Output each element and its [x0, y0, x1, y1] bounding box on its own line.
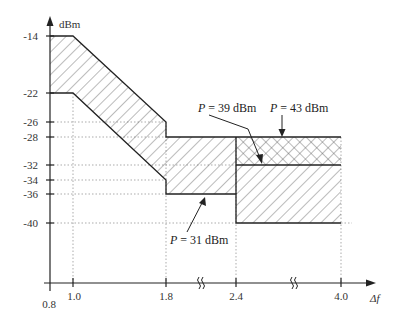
region-p43	[236, 137, 341, 165]
region-p31	[50, 36, 236, 194]
x-tick-label: 1.8	[159, 290, 173, 302]
x-tick-label: 0.8	[42, 298, 56, 310]
x-tick-label: 4.0	[334, 290, 348, 302]
annotation-p39: P = 39 dBm	[197, 101, 257, 115]
y-tick-label: -36	[23, 188, 38, 200]
y-tick-label: -28	[23, 131, 38, 143]
y-tick-label: -40	[23, 217, 38, 229]
x-axis-title: Δf	[369, 292, 381, 304]
y-axis-title: dBm	[59, 18, 81, 30]
annotation-p31: P = 31 dBm	[169, 233, 229, 247]
y-axis-arrow-icon	[47, 16, 54, 26]
y-tick-labels: -14 -22 -26 -28 -32 -34 -36 -40	[23, 30, 38, 229]
y-tick-label: -26	[23, 116, 38, 128]
annotation-p43: P = 43 dBm	[269, 101, 329, 115]
y-tick-label: -22	[23, 87, 38, 99]
x-tick-label: 2.4	[229, 290, 243, 302]
y-tick-label: -14	[23, 30, 38, 42]
y-tick-label: -34	[23, 174, 38, 186]
arrow-head-p31-icon	[199, 197, 206, 206]
y-tick-label: -32	[23, 159, 38, 171]
region-p39	[236, 165, 341, 223]
spectrum-mask-diagram: -14 -22 -26 -28 -32 -34 -36 -40 0.8 1.0 …	[0, 0, 398, 320]
x-axis-arrow-icon	[366, 280, 376, 287]
x-tick-labels: 0.8 1.0 1.8 2.4 4.0	[42, 290, 348, 310]
arrow-head-p43-icon	[279, 129, 286, 137]
x-tick-label: 1.0	[67, 290, 81, 302]
